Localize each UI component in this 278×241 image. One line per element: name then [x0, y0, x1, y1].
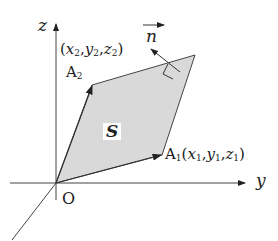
z-axis-label: z [38, 17, 47, 34]
normal-label: n [146, 28, 157, 45]
x-axis [12, 183, 56, 240]
diagram-canvas: z y O n (x2,y2,z2) A2 A1(x1,y1,z1) S [0, 0, 278, 241]
diagram-graphics [0, 0, 278, 241]
y-axis-label: y [256, 172, 266, 189]
point-a2-label: A2 [66, 65, 83, 81]
point-a2-coords: (x2,y2,z2) [60, 42, 123, 58]
area-label-s: S [103, 123, 121, 140]
point-a1-label: A1(x1,y1,z1) [165, 147, 245, 163]
origin-label: O [62, 191, 75, 207]
